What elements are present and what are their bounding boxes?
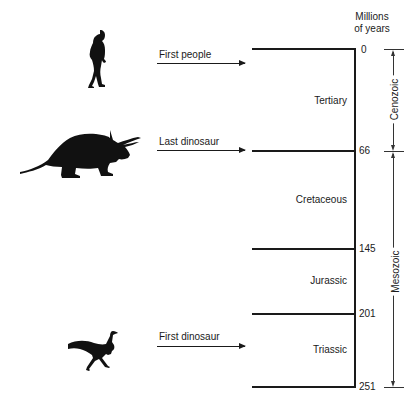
period-triassic: Triassic [313,344,347,356]
axis-title: Millions of years [342,11,402,35]
event-first-dinosaur-label: First dinosaur [159,331,220,343]
period-tertiary: Tertiary [314,95,347,107]
triceratops-silhouette-icon [18,126,148,178]
tick-label-145: 145 [359,243,376,255]
event-first-people-label: First people [159,49,211,61]
theropod-silhouette-icon [66,328,128,372]
boundary-line-66 [252,150,356,152]
event-first-dinosaur-arrow [157,346,245,347]
axis-title-line2: of years [342,23,402,35]
era-cap-bottom [384,387,404,388]
period-cretaceous: Cretaceous [296,194,347,206]
event-last-dinosaur-arrow [157,150,245,151]
human-silhouette-icon [82,28,112,90]
boundary-line-201 [252,313,356,315]
tick-label-251: 251 [359,381,376,393]
era-mesozoic: Mesozoic [390,247,401,295]
time-axis [354,48,356,388]
tick-label-201: 201 [359,308,376,320]
tick-label-0: 0 [361,44,367,56]
boundary-line-145 [252,248,356,250]
axis-title-line1: Millions [342,11,402,23]
event-last-dinosaur-label: Last dinosaur [159,136,219,148]
boundary-line-0 [252,48,356,50]
event-first-people-arrow [157,63,245,64]
boundary-line-251 [252,386,356,388]
tick-label-66: 66 [359,145,370,157]
era-cenozoic: Cenozoic [389,76,400,124]
period-jurassic: Jurassic [310,275,347,287]
